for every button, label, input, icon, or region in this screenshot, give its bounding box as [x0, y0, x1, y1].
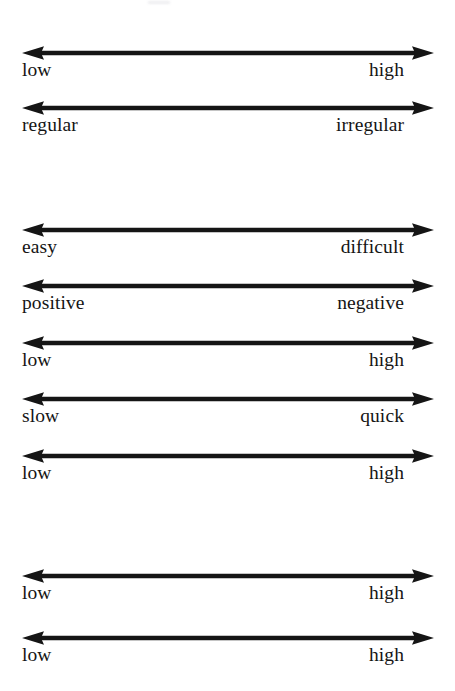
- scale-row-5: low high: [0, 334, 455, 384]
- scale-anchor-labels: low high: [22, 57, 404, 83]
- scales-sheet: low high regular irregular easy difficul…: [0, 0, 455, 691]
- scale-5-anchor-right: high: [369, 347, 404, 373]
- scale-row-1: low high: [0, 44, 455, 94]
- scale-8-anchor-right: high: [369, 580, 404, 606]
- scale-anchor-labels: regular irregular: [22, 112, 404, 138]
- scale-anchor-labels: slow quick: [22, 403, 404, 429]
- scale-8-anchor-left: low: [22, 580, 52, 606]
- scale-anchor-labels: positive negative: [22, 290, 404, 316]
- scale-row-4: positive negative: [0, 277, 455, 327]
- scale-anchor-labels: easy difficult: [22, 234, 404, 260]
- scan-artifact-speck: [148, 1, 170, 4]
- scale-5-anchor-left: low: [22, 347, 52, 373]
- scale-1-anchor-left: low: [22, 57, 52, 83]
- scale-row-7: low high: [0, 447, 455, 497]
- scale-row-8: low high: [0, 567, 455, 617]
- scale-anchor-labels: low high: [22, 347, 404, 373]
- scale-6-anchor-right: quick: [360, 403, 404, 429]
- scale-row-2: regular irregular: [0, 99, 455, 149]
- scale-4-anchor-right: negative: [337, 290, 404, 316]
- scale-6-anchor-left: slow: [22, 403, 59, 429]
- scale-3-anchor-right: difficult: [341, 234, 404, 260]
- scale-7-anchor-left: low: [22, 460, 52, 486]
- scale-anchor-labels: low high: [22, 642, 404, 668]
- scale-anchor-labels: low high: [22, 460, 404, 486]
- scale-7-anchor-right: high: [369, 460, 404, 486]
- scale-2-anchor-left: regular: [22, 112, 78, 138]
- scale-2-anchor-right: irregular: [336, 112, 404, 138]
- scale-anchor-labels: low high: [22, 580, 404, 606]
- scale-4-anchor-left: positive: [22, 290, 85, 316]
- scale-1-anchor-right: high: [369, 57, 404, 83]
- scale-row-9: low high: [0, 629, 455, 679]
- scale-row-6: slow quick: [0, 390, 455, 440]
- scale-row-3: easy difficult: [0, 221, 455, 271]
- scale-9-anchor-left: low: [22, 642, 52, 668]
- scale-9-anchor-right: high: [369, 642, 404, 668]
- scale-3-anchor-left: easy: [22, 234, 57, 260]
